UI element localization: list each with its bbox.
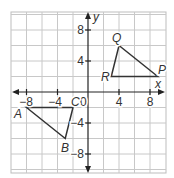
x-axis-left-arrow-icon — [12, 89, 19, 95]
origin-label: 0 — [80, 95, 87, 109]
x-axis-label: x — [154, 77, 162, 91]
vertex-label-r: R — [101, 70, 110, 84]
y-axis-label: y — [92, 10, 100, 24]
x-tick-label: 8 — [147, 95, 154, 109]
vertex-label-q: Q — [112, 31, 121, 45]
y-tick-label: 4 — [77, 54, 84, 68]
x-tick-label: 4 — [116, 95, 123, 109]
vertex-label-c: C — [71, 95, 80, 109]
vertex-label-a: A — [13, 107, 22, 121]
y-tick-label: −4 — [70, 116, 84, 130]
y-axis-up-arrow-icon — [85, 12, 91, 19]
y-tick-label: −8 — [70, 147, 84, 161]
y-tick-label: 8 — [77, 23, 84, 37]
axes — [12, 12, 165, 173]
vertex-label-b: B — [61, 141, 69, 155]
x-tick-label: −4 — [48, 95, 62, 109]
coordinate-plane: −8 −4 4 8 8 4 −4 −8 0 y x A B C P Q R — [0, 0, 174, 178]
vertex-label-p: P — [158, 63, 166, 77]
